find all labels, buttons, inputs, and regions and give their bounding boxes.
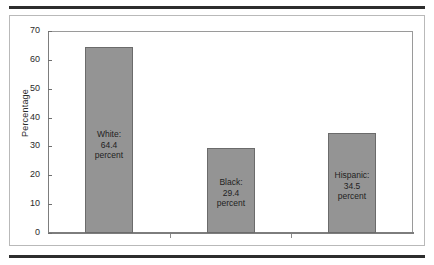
bar-value-label: Hispanic:34.5percent bbox=[329, 170, 375, 202]
bar-label-line: percent bbox=[329, 191, 375, 202]
y-tick-label: 20 bbox=[0, 170, 40, 179]
figure-container: Percentage 010203040506070 White:64.4per… bbox=[0, 0, 434, 265]
y-tick-label: 60 bbox=[0, 55, 40, 64]
y-tick-mark bbox=[48, 60, 52, 61]
bar-label-line: 64.4 bbox=[86, 140, 132, 151]
y-tick-label: 50 bbox=[0, 84, 40, 93]
bar-label-line: percent bbox=[208, 198, 254, 209]
y-tick-mark bbox=[48, 175, 52, 176]
bar-black: Black:29.4percent bbox=[207, 148, 255, 233]
y-tick-label: 70 bbox=[0, 26, 40, 35]
y-tick-mark bbox=[48, 118, 52, 119]
bar-label-line: Hispanic: bbox=[329, 170, 375, 181]
x-tick-mark bbox=[170, 234, 171, 238]
bottom-rule bbox=[9, 255, 425, 258]
bar-label-line: percent bbox=[86, 150, 132, 161]
y-tick-label: 30 bbox=[0, 141, 40, 150]
y-tick-mark bbox=[48, 204, 52, 205]
y-axis-line bbox=[48, 31, 49, 233]
y-tick-label: 40 bbox=[0, 113, 40, 122]
bar-label-line: 34.5 bbox=[329, 181, 375, 192]
y-tick-mark bbox=[48, 233, 52, 234]
y-tick-mark bbox=[48, 146, 52, 147]
bar-label-line: White: bbox=[86, 129, 132, 140]
bar-hispanic: Hispanic:34.5percent bbox=[328, 133, 376, 233]
y-tick-mark bbox=[48, 89, 52, 90]
x-tick-mark bbox=[291, 234, 292, 238]
y-tick-label: 10 bbox=[0, 199, 40, 208]
bar-value-label: Black:29.4percent bbox=[208, 177, 254, 209]
bar-white: White:64.4percent bbox=[85, 47, 133, 233]
y-tick-label: 0 bbox=[0, 228, 40, 237]
bar-value-label: White:64.4percent bbox=[86, 129, 132, 161]
y-tick-mark bbox=[48, 31, 52, 32]
bar-label-line: Black: bbox=[208, 177, 254, 188]
bar-label-line: 29.4 bbox=[208, 188, 254, 199]
top-rule bbox=[9, 6, 425, 9]
